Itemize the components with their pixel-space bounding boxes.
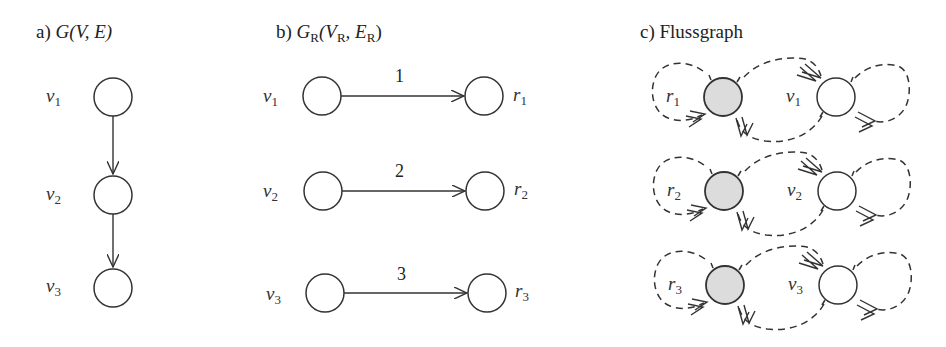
node-label-v3: v3	[266, 283, 281, 307]
arrow-double-top-1	[797, 64, 821, 81]
node-v3	[94, 269, 132, 307]
node-label-r2: r2	[667, 179, 681, 203]
flow-row-1: r1 v1	[652, 58, 909, 141]
arrow-double-top-2	[798, 158, 822, 175]
edge-label-1: 1	[395, 66, 404, 86]
port-tick	[739, 265, 742, 270]
arrow-double-v1-in	[855, 112, 875, 132]
node-v2-plain	[818, 172, 856, 210]
node-v3	[306, 274, 344, 312]
port-tick	[853, 265, 855, 270]
panel-c-title: c) Flussgraph	[640, 21, 743, 43]
node-label-v3: v3	[46, 275, 61, 299]
port-tick	[852, 171, 854, 176]
self-loop-v3	[857, 253, 911, 310]
node-r3	[468, 274, 506, 312]
node-v1-plain	[817, 78, 855, 116]
flow-row-3: r3 v3	[654, 246, 911, 329]
panel-a-title: a) G(V, E)	[36, 21, 112, 43]
port-tick	[711, 263, 713, 268]
node-label-v2: v2	[787, 179, 802, 203]
node-label-r3: r3	[515, 280, 529, 304]
node-label-r1: r1	[666, 85, 680, 109]
arrow-double-v3-in	[857, 300, 877, 320]
node-v2	[94, 176, 132, 214]
edge-label-2: 2	[395, 161, 404, 181]
node-r2-shaded	[705, 172, 743, 210]
flow-row-2: r2 v2	[653, 152, 910, 235]
node-label-v2: v2	[46, 183, 61, 207]
edge-label-3: 3	[397, 264, 406, 284]
node-v1	[303, 77, 341, 115]
port-tick	[738, 171, 741, 176]
self-loop-v2	[856, 159, 910, 216]
node-label-v3: v3	[788, 273, 803, 297]
figure-canvas: a) G(V, E) v1 v2 v3 b) GR(VR, ER) v1 1 r…	[0, 0, 946, 347]
port-tick	[851, 77, 853, 82]
node-v1	[94, 78, 132, 116]
self-loop-v1	[855, 65, 909, 122]
node-r3-shaded	[706, 266, 744, 304]
node-v2	[304, 172, 342, 210]
panel-b-title: b) GR(VR, ER)	[276, 21, 382, 45]
node-label-v1: v1	[46, 85, 61, 109]
port-tick	[710, 169, 712, 174]
node-label-r1: r1	[513, 84, 527, 108]
port-tick	[737, 77, 740, 82]
node-label-r2: r2	[514, 178, 528, 202]
node-r1	[465, 77, 503, 115]
port-tick	[709, 75, 711, 80]
arrow-double-v2-in	[856, 206, 876, 226]
node-v3-plain	[819, 266, 857, 304]
node-label-r3: r3	[668, 273, 682, 297]
node-label-v1: v1	[786, 85, 801, 109]
node-label-v1: v1	[263, 85, 278, 109]
panel-c: c) Flussgraph r1 v1	[640, 21, 911, 330]
panel-a: a) G(V, E) v1 v2 v3	[36, 21, 132, 307]
arrow-double-top-3	[799, 252, 823, 269]
node-r1-shaded	[704, 78, 742, 116]
node-label-v2: v2	[263, 180, 278, 204]
node-r2	[466, 172, 504, 210]
panel-b: b) GR(VR, ER) v1 1 r1 v2 2 r2 v3 3 r3	[263, 21, 529, 312]
